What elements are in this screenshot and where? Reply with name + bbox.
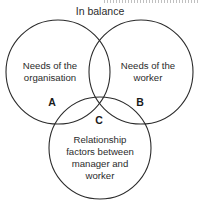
worker-label-line-1: Needs of the bbox=[121, 60, 175, 71]
relationship-circle-label: Relationship factors between manager and… bbox=[66, 134, 134, 181]
diagram-canvas: In balance Needs of the organisation Nee… bbox=[0, 0, 200, 213]
region-key-c: C bbox=[95, 114, 103, 126]
worker-label-line-2: worker bbox=[133, 72, 164, 83]
organisation-label-line-1: Needs of the bbox=[23, 60, 77, 71]
relationship-label-line-3: manager and bbox=[72, 158, 129, 169]
venn-diagram: In balance Needs of the organisation Nee… bbox=[0, 0, 200, 213]
organisation-label-line-2: organisation bbox=[24, 72, 76, 83]
region-key-a: A bbox=[48, 96, 56, 108]
region-key-b: B bbox=[136, 96, 144, 108]
organisation-circle-label: Needs of the organisation bbox=[23, 60, 77, 83]
relationship-label-line-1: Relationship bbox=[74, 134, 127, 145]
diagram-title: In balance bbox=[76, 5, 125, 17]
relationship-label-line-4: worker bbox=[85, 170, 116, 181]
worker-circle-label: Needs of the worker bbox=[121, 60, 175, 83]
relationship-label-line-2: factors between bbox=[66, 146, 134, 157]
